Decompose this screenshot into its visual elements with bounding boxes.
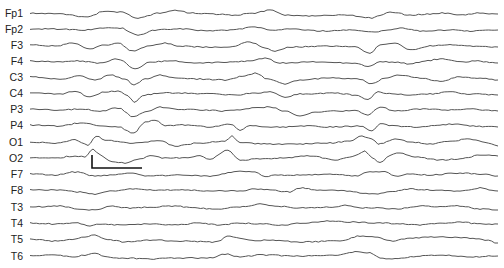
channel-labels: Fp1Fp2F3F4C3C4P3P4O1O2F7F8T3T4T5T6 xyxy=(5,7,23,262)
trace-t3 xyxy=(30,204,498,211)
calibration-scale-bar xyxy=(92,155,142,168)
channel-label-c4: C4 xyxy=(10,87,24,99)
trace-t5 xyxy=(30,235,498,243)
channel-label-o1: O1 xyxy=(9,136,23,148)
channel-label-f4: F4 xyxy=(11,55,23,67)
trace-o1 xyxy=(30,136,498,147)
channel-label-t3: T3 xyxy=(11,201,23,213)
trace-f3 xyxy=(30,42,498,54)
channel-traces xyxy=(30,10,498,260)
channel-label-f3: F3 xyxy=(11,39,23,51)
eeg-chart: Fp1Fp2F3F4C3C4P3P4O1O2F7F8T3T4T5T6 xyxy=(0,0,504,268)
channel-label-fp2: Fp2 xyxy=(5,23,23,35)
channel-label-f7: F7 xyxy=(11,168,23,180)
trace-c3 xyxy=(30,73,498,85)
trace-p4 xyxy=(30,120,498,133)
channel-label-f8: F8 xyxy=(11,184,23,196)
trace-t6 xyxy=(30,252,498,260)
trace-f7 xyxy=(30,171,498,177)
trace-fp1 xyxy=(30,10,498,19)
trace-f8 xyxy=(30,188,498,195)
trace-fp2 xyxy=(30,27,498,35)
channel-label-o2: O2 xyxy=(9,152,23,164)
trace-f4 xyxy=(30,58,498,69)
channel-label-fp1: Fp1 xyxy=(5,7,23,19)
trace-c4 xyxy=(30,91,498,103)
trace-p3 xyxy=(30,107,498,117)
channel-label-t6: T6 xyxy=(11,250,23,262)
channel-label-t4: T4 xyxy=(11,217,23,229)
trace-o2 xyxy=(30,149,498,163)
channel-label-p3: P3 xyxy=(10,103,23,115)
channel-label-c3: C3 xyxy=(10,71,24,83)
channel-label-t5: T5 xyxy=(11,233,23,245)
trace-t4 xyxy=(30,221,498,226)
channel-label-p4: P4 xyxy=(10,119,23,131)
